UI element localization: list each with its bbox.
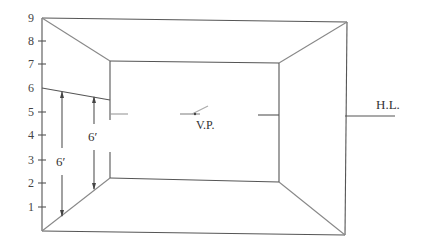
scale-label-1: 1 bbox=[22, 201, 34, 213]
scale-label-5: 5 bbox=[22, 106, 34, 118]
height-label-left: 6′ bbox=[56, 155, 65, 168]
scale-label-8: 8 bbox=[22, 35, 34, 47]
scale-label-3: 3 bbox=[22, 154, 34, 166]
scale-label-6: 6 bbox=[22, 82, 34, 94]
scale-label-9: 9 bbox=[22, 12, 34, 24]
scale-label-7: 7 bbox=[22, 58, 34, 70]
height-label-right: 6′ bbox=[88, 130, 97, 143]
vanishing-point-label: V.P. bbox=[196, 119, 214, 131]
scale-label-4: 4 bbox=[22, 129, 34, 141]
scale-label-2: 2 bbox=[22, 177, 34, 189]
diagram-lines bbox=[0, 0, 444, 246]
horizon-line-label: H.L. bbox=[376, 98, 400, 111]
